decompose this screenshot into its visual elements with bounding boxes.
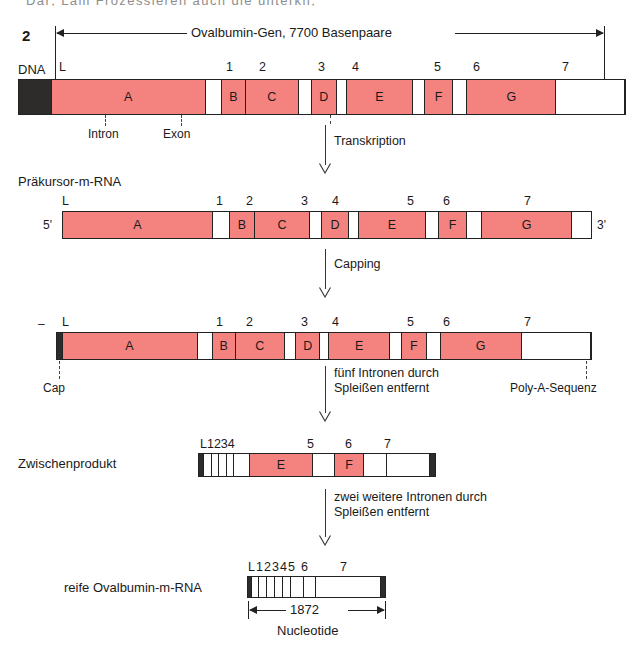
span-line-left: [57, 33, 187, 34]
dna-seg-exon-F: F: [425, 80, 452, 114]
splice-two-label-line1: zwei weitere Intronen durch: [334, 490, 487, 505]
mature-seg-polyA-mark: [381, 577, 385, 597]
intermediate-num-L1234: L1234: [200, 437, 235, 451]
span-arrowhead-right: [596, 29, 604, 37]
row-label-dna: DNA: [18, 62, 45, 77]
intermediate-seg-3: [227, 454, 234, 476]
splice-five-arrow-shaft: [325, 366, 326, 413]
precursor-num-3: 3: [301, 194, 308, 208]
intermediate-num-7: 7: [384, 437, 391, 451]
dna-seg-flank-left: [19, 80, 52, 114]
splice-five-label-line1: fünf Intronen durch: [334, 366, 439, 381]
capped-seg-exon-A: A: [63, 333, 198, 359]
capped-num-4: 4: [332, 315, 339, 329]
dna-seg-exon-G: G: [467, 80, 556, 114]
splice-five-label-line2: Spleißen entfernt: [334, 381, 429, 396]
span-right-guide: [604, 26, 605, 86]
capped-seg-exon-E: E: [329, 333, 389, 359]
dna-extra-leader-line: [330, 115, 331, 124]
intermediate-seg-exon-F: F: [335, 454, 364, 476]
capped-seg-exon-G: G: [441, 333, 522, 359]
dna-num-1: 1: [226, 60, 233, 74]
capped-seg-exon-F: F: [402, 333, 427, 359]
intermediate-seg-2: [219, 454, 227, 476]
precursor-five-prime-label: 5': [43, 218, 52, 232]
capped-seg-exon-B: B: [213, 333, 236, 359]
capped-num-1: 1: [216, 315, 223, 329]
intermediate-seg-L: [204, 454, 212, 476]
mature-length-value: 1872: [290, 602, 319, 617]
dna-seg-intron-1: [206, 80, 222, 114]
span-line-right: [455, 33, 603, 34]
polyA-leader-line: [586, 361, 587, 379]
span-arrowhead-left: [56, 29, 64, 37]
capped-seg-intron-5: [390, 333, 402, 359]
mature-seg-2: [267, 577, 275, 597]
precursor-num-6: 6: [443, 194, 450, 208]
intermediate-seg-1: [212, 454, 219, 476]
mature-num-2: 2: [264, 560, 271, 574]
precursor-seg-exon-C: C: [255, 212, 310, 238]
precursor-num-5: 5: [407, 194, 414, 208]
precursor-bar: A B C D E F G: [62, 211, 592, 239]
capped-seg-intron-3: [285, 333, 296, 359]
mature-seg-6: [304, 577, 316, 597]
intermediate-num-6: 6: [345, 437, 352, 451]
polyA-label: Poly-A-Sequenz: [510, 381, 597, 395]
dna-num-5: 5: [434, 60, 441, 74]
row-label-intermediate: Zwischenprodukt: [18, 456, 116, 471]
dna-num-L: L: [59, 60, 66, 74]
length-arrowhead-left: [249, 606, 257, 614]
cap-label: Cap: [43, 381, 65, 395]
mature-seg-3: [275, 577, 283, 597]
transkription-arrow-head: [319, 163, 331, 173]
precursor-seg-exon-B: B: [230, 212, 255, 238]
intermediate-seg-intron-6: [364, 454, 387, 476]
mature-bar: [247, 576, 386, 598]
splice-two-arrow-head: [319, 535, 331, 545]
mature-length-unit: Nucleotide: [277, 623, 338, 638]
mature-num-7: 7: [340, 560, 347, 574]
splice-two-label-line2: Spleißen entfernt: [334, 505, 429, 520]
precursor-seg-exon-E: E: [359, 212, 426, 238]
dna-seg-exon-E: E: [347, 80, 413, 114]
length-right-tick: [385, 601, 386, 619]
length-arrowhead-right: [377, 606, 385, 614]
mature-num-L: L: [248, 560, 255, 574]
precursor-seg-intron-7: [572, 212, 591, 238]
mature-num-4: 4: [280, 560, 287, 574]
dna-num-2: 2: [259, 60, 266, 74]
precursor-seg-intron-6: [467, 212, 482, 238]
figure-number: 2: [22, 27, 30, 44]
dna-seg-intron-4: [337, 80, 347, 114]
intermediate-seg-exon-E: E: [250, 454, 313, 476]
capped-num-L: L: [62, 315, 69, 329]
capped-num-5: 5: [407, 315, 414, 329]
cut-off-header-text: Dar; Lam Frozessieren auch die ünterkn;: [26, 0, 316, 6]
intermediate-num-5: 5: [307, 437, 314, 451]
mature-seg-1: [259, 577, 267, 597]
intermediate-seg-intron-5: [313, 454, 335, 476]
precursor-seg-exon-D: D: [322, 212, 349, 238]
splice-five-arrow-head: [319, 411, 331, 421]
dna-seg-intron-6: [453, 80, 468, 114]
dna-seg-exon-A: A: [52, 80, 206, 114]
exon-label: Exon: [163, 127, 190, 141]
mature-seg-5: [291, 577, 304, 597]
precursor-seg-intron-4: [349, 212, 359, 238]
mature-seg-L: [252, 577, 259, 597]
mature-seg-7: [316, 577, 381, 597]
precursor-seg-intron-1: [213, 212, 230, 238]
precursor-num-L: L: [62, 194, 69, 208]
intron-leader-line: [105, 115, 106, 126]
mature-num-1: 1: [256, 560, 263, 574]
capped-seg-intron-1: [198, 333, 213, 359]
transkription-label: Transkription: [334, 134, 406, 149]
precursor-seg-exon-F: F: [439, 212, 467, 238]
capping-label: Capping: [334, 257, 381, 272]
capping-arrow-shaft: [325, 249, 326, 289]
intermediate-seg-4: [234, 454, 250, 476]
exon-leader-line: [181, 115, 182, 126]
intermediate-bar: E F: [198, 453, 436, 477]
precursor-num-7: 7: [524, 194, 531, 208]
